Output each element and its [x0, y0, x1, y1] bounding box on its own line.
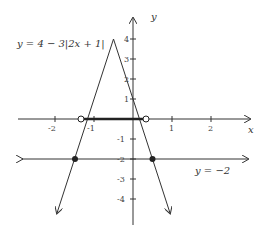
intersection-right	[150, 156, 156, 162]
y-tick-label: -3	[117, 175, 125, 184]
x-tick-label: -2	[48, 124, 56, 133]
curve-right-branch	[114, 39, 171, 213]
y-tick-label: 3	[124, 55, 129, 64]
intersection-left	[72, 156, 78, 162]
y-tick-label: -4	[117, 195, 125, 204]
x-axis-label: x	[248, 124, 254, 135]
curve-left-branch	[57, 39, 114, 213]
y-tick-label: 1	[124, 95, 129, 104]
x-tick-label: -1	[87, 124, 95, 133]
y-axis-label: y	[150, 11, 157, 22]
chart: -2 -1 1 2 4 3 2 1 -1 -2 -3 -4 x y y = −2…	[0, 0, 265, 234]
line-label: y = −2	[194, 165, 230, 176]
y-tick-label: -1	[117, 135, 125, 144]
curve-label: y = 4 − 3|2x + 1|	[16, 38, 105, 50]
x-tick-label: 1	[169, 124, 174, 133]
open-point-left	[78, 116, 84, 122]
open-point-right	[143, 116, 149, 122]
y-tick-label: 4	[124, 35, 129, 44]
x-tick-label: 2	[208, 124, 213, 133]
